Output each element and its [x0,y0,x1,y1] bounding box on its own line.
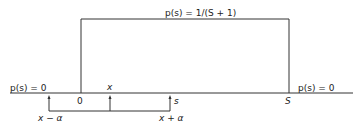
left-label: p(s) = 0 [10,83,47,93]
right-label: p(s) = 0 [298,83,335,93]
marker-x-label: x [106,82,113,92]
arrow-mid-head [109,95,112,99]
arrow-right-head [169,95,172,99]
top-label: p(s) = 1/(S + 1) [165,8,236,18]
marker-s-label: s [174,96,179,106]
axis-S-label: S [285,96,291,106]
axis-zero-label: 0 [77,96,83,106]
arrow-left-head [48,95,51,99]
x-minus-alpha-label: x − α [37,113,63,123]
x-plus-alpha-label: x + α [158,113,184,123]
distribution-diagram: p(s) = 1/(S + 1) p(s) = 0 p(s) = 0 0 S x… [0,0,361,134]
